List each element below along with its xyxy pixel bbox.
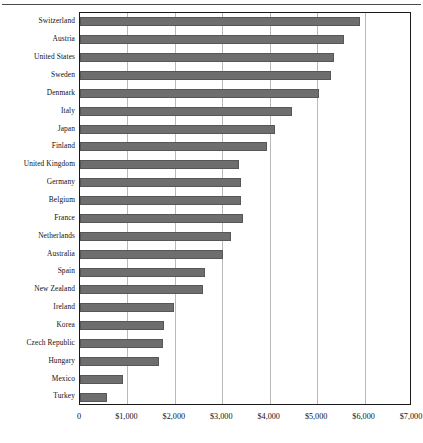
x-axis-tick-labels: 0$1,000$2,000$3,000$4,000$5,000$6,000$7,… bbox=[0, 412, 423, 432]
bar bbox=[80, 196, 241, 205]
category-label: Korea bbox=[0, 320, 75, 329]
x-tick-label: $5,000 bbox=[305, 412, 328, 421]
bars-layer bbox=[80, 13, 410, 404]
bar bbox=[80, 89, 319, 98]
bar bbox=[80, 17, 360, 26]
bar bbox=[80, 125, 275, 134]
bar bbox=[80, 303, 174, 312]
category-label: Finland bbox=[0, 141, 75, 150]
x-tick-label: 0 bbox=[77, 412, 81, 421]
category-label: Switzerland bbox=[0, 16, 75, 25]
bar bbox=[80, 232, 231, 241]
category-label: Denmark bbox=[0, 88, 75, 97]
x-tick-label: $4,000 bbox=[257, 412, 280, 421]
bar bbox=[80, 142, 267, 151]
bar bbox=[80, 268, 205, 277]
category-label: France bbox=[0, 213, 75, 222]
category-label: Hungary bbox=[0, 356, 75, 365]
bar bbox=[80, 393, 107, 402]
bar bbox=[80, 321, 164, 330]
x-tick-label: $1,000 bbox=[115, 412, 138, 421]
category-label: Netherlands bbox=[0, 231, 75, 240]
bar bbox=[80, 178, 241, 187]
x-tick-label: $3,000 bbox=[210, 412, 233, 421]
bar bbox=[80, 53, 334, 62]
category-label: New Zealand bbox=[0, 284, 75, 293]
category-label: Austria bbox=[0, 34, 75, 43]
category-label: Ireland bbox=[0, 302, 75, 311]
bar bbox=[80, 35, 344, 44]
category-label: Spain bbox=[0, 266, 75, 275]
bar bbox=[80, 160, 239, 169]
category-label: Czech Republic bbox=[0, 338, 75, 347]
x-tick-label: $2,000 bbox=[163, 412, 186, 421]
x-tick-label: $6,000 bbox=[352, 412, 375, 421]
bar bbox=[80, 339, 163, 348]
category-label: Mexico bbox=[0, 374, 75, 383]
bar bbox=[80, 107, 292, 116]
category-label: Belgium bbox=[0, 195, 75, 204]
plot-area bbox=[79, 12, 411, 405]
category-label: Sweden bbox=[0, 70, 75, 79]
category-axis-labels: SwitzerlandAustriaUnited StatesSwedenDen… bbox=[0, 12, 75, 405]
category-label: Italy bbox=[0, 106, 75, 115]
category-label: United Kingdom bbox=[0, 159, 75, 168]
bar bbox=[80, 375, 123, 384]
category-label: Turkey bbox=[0, 391, 75, 400]
bar-chart: SwitzerlandAustriaUnited StatesSwedenDen… bbox=[0, 0, 423, 443]
bar bbox=[80, 285, 203, 294]
bar bbox=[80, 214, 243, 223]
bar bbox=[80, 71, 331, 80]
category-label: Germany bbox=[0, 177, 75, 186]
bar bbox=[80, 250, 223, 259]
category-label: Japan bbox=[0, 124, 75, 133]
x-tick-label: $7,000 bbox=[400, 412, 423, 421]
category-label: United States bbox=[0, 52, 75, 61]
bar bbox=[80, 357, 159, 366]
top-divider-rule bbox=[2, 4, 421, 5]
category-label: Australia bbox=[0, 249, 75, 258]
